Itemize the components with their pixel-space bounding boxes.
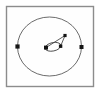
outer-node-left-marker bbox=[15, 44, 19, 48]
orbit-diagram-svg bbox=[0, 0, 101, 94]
inner-node-right-marker bbox=[59, 45, 62, 48]
figure-container bbox=[0, 0, 101, 94]
inner-node-left-marker bbox=[44, 46, 48, 50]
apex-node-marker bbox=[63, 34, 66, 37]
outer-node-right-marker bbox=[80, 45, 84, 49]
